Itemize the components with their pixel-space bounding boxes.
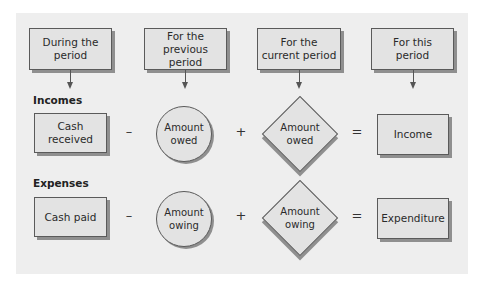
cash-line2: received bbox=[48, 133, 93, 145]
plus-operator: + bbox=[234, 124, 248, 139]
header-text-line2: period bbox=[54, 49, 87, 61]
header-text-line1: For the bbox=[167, 30, 204, 42]
header-text-line2: previous period bbox=[163, 43, 208, 68]
cash-paid-box: Cash paid bbox=[34, 197, 107, 237]
income-box: Income bbox=[377, 114, 449, 155]
amount-owed-diamond: Amountowed bbox=[262, 96, 338, 172]
header-text-line2: current period bbox=[262, 49, 337, 61]
minus-operator: – bbox=[122, 208, 136, 223]
equals-operator: = bbox=[350, 124, 364, 139]
incomes-label: Incomes bbox=[33, 94, 82, 106]
header-current-period: For thecurrent period bbox=[257, 28, 341, 70]
header-during-period: During theperiod bbox=[29, 28, 112, 70]
income-label: Income bbox=[394, 128, 433, 141]
diamond-line1: Amount bbox=[280, 206, 319, 217]
arrow-line bbox=[413, 70, 414, 82]
minus-operator: – bbox=[122, 124, 136, 139]
cash-received-box: Cashreceived bbox=[34, 113, 107, 153]
amount-owing-circle: Amountowing bbox=[156, 191, 212, 247]
arrow-line bbox=[185, 70, 186, 82]
header-previous-period: For theprevious period bbox=[144, 28, 227, 70]
arrow-down-icon bbox=[67, 82, 73, 89]
expenditure-label: Expenditure bbox=[381, 212, 445, 225]
plus-operator: + bbox=[234, 208, 248, 223]
arrow-line bbox=[70, 70, 71, 82]
header-text-line1: During the bbox=[43, 36, 99, 48]
equals-operator: = bbox=[350, 208, 364, 223]
expenses-label: Expenses bbox=[33, 177, 89, 189]
arrow-down-icon bbox=[410, 82, 416, 89]
amount-owed-circle: Amountowed bbox=[156, 106, 212, 162]
circle-line2: owing bbox=[169, 220, 199, 231]
header-text-line2: period bbox=[396, 49, 429, 61]
header-text-line1: For this bbox=[393, 36, 432, 48]
circle-line1: Amount bbox=[164, 207, 203, 218]
arrow-line bbox=[299, 70, 300, 82]
circle-line2: owed bbox=[171, 135, 198, 146]
diamond-line2: owing bbox=[285, 219, 315, 230]
amount-owing-diamond: Amountowing bbox=[262, 180, 338, 256]
header-text-line1: For the bbox=[281, 36, 318, 48]
circle-line1: Amount bbox=[164, 122, 203, 133]
diamond-line2: owed bbox=[287, 135, 314, 146]
cash-line1: Cash bbox=[58, 120, 84, 132]
cash-paid-label: Cash paid bbox=[45, 211, 97, 224]
arrow-down-icon bbox=[296, 82, 302, 89]
arrow-down-icon bbox=[182, 82, 188, 89]
diamond-line1: Amount bbox=[280, 122, 319, 133]
expenditure-box: Expenditure bbox=[377, 198, 449, 239]
header-this-period: For thisperiod bbox=[371, 28, 454, 70]
